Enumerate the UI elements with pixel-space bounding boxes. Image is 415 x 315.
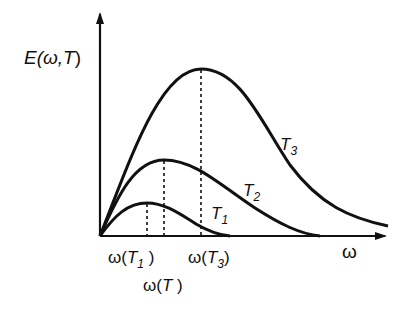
x-axis-label: ω	[342, 241, 357, 262]
blackbody-spectrum-chart: E(ω,T) ω T3 T2 T1 ω(T1 ) ω(T3) ω(T )	[0, 0, 415, 315]
curve-label-t1: T1	[211, 204, 228, 227]
tick-label-omega-t2: ω(T )	[143, 276, 183, 295]
tick-label-omega-t1: ω(T1 )	[108, 248, 154, 271]
tick-label-omega-t3: ω(T3)	[188, 248, 230, 271]
y-axis-label: E(ω,T)	[24, 47, 81, 68]
curve-t3	[100, 69, 388, 236]
curve-t2	[100, 160, 320, 236]
